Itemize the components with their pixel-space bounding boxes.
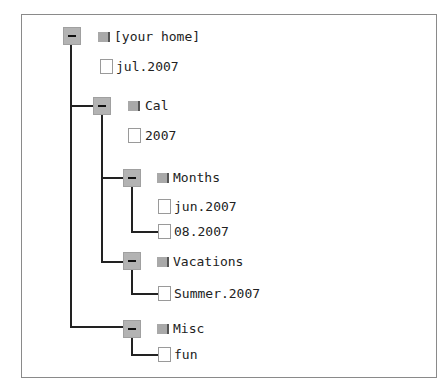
file-icon (158, 199, 171, 214)
file-icon (100, 59, 113, 74)
connector-cal-vertical (101, 114, 103, 263)
connector-vacations-vertical (131, 269, 133, 295)
collapse-toggle-cal[interactable] (93, 97, 111, 115)
tree-node-summer-2007[interactable]: Summer.2007 (174, 286, 260, 302)
folder-icon (157, 173, 169, 183)
connector-08-horizontal (131, 231, 158, 233)
tree-node-cal[interactable]: Cal (145, 98, 168, 114)
connector-months-vertical (131, 186, 133, 233)
folder-icon (157, 324, 169, 334)
file-icon (128, 128, 141, 143)
tree-node-jul-2007[interactable]: jul.2007 (116, 59, 179, 75)
connector-months-horizontal (101, 177, 123, 179)
tree-frame (21, 14, 437, 378)
connector-root-vertical (70, 44, 72, 328)
tree-node-fun[interactable]: fun (174, 347, 197, 363)
tree-node-your-home[interactable]: [your home] (114, 29, 200, 45)
connector-misc-horizontal (70, 326, 123, 328)
file-icon (158, 224, 171, 239)
file-icon (158, 347, 171, 362)
connector-fun-horizontal (131, 354, 158, 356)
tree-node-vacations[interactable]: Vacations (173, 254, 243, 270)
folder-icon (98, 32, 110, 42)
tree-node-misc[interactable]: Misc (173, 321, 204, 337)
connector-cal-horizontal (70, 105, 93, 107)
connector-summer-horizontal (131, 293, 158, 295)
folder-icon (157, 257, 169, 267)
connector-vacations-horizontal (101, 261, 123, 263)
collapse-toggle-months[interactable] (123, 169, 141, 187)
file-icon (158, 286, 171, 301)
tree-node-jun-2007[interactable]: jun.2007 (174, 199, 237, 215)
folder-icon (128, 101, 140, 111)
collapse-toggle-vacations[interactable] (123, 252, 141, 270)
collapse-toggle-your-home[interactable] (63, 27, 81, 45)
collapse-toggle-misc[interactable] (123, 320, 141, 338)
tree-node-08-2007[interactable]: 08.2007 (174, 224, 229, 240)
tree-node-months[interactable]: Months (173, 170, 220, 186)
tree-node-2007[interactable]: 2007 (145, 128, 176, 144)
